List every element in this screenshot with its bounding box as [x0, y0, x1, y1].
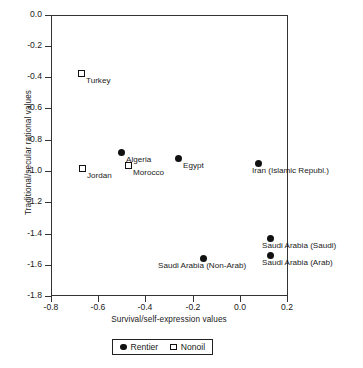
y-tick-label: 0.0 — [2, 10, 42, 19]
data-label-jordan: Jordan — [87, 171, 112, 180]
scatter-plot-figure: Traditional/secular rational values 0.0 … — [0, 0, 363, 368]
y-tick-label: -0.6 — [2, 103, 42, 112]
y-tick-label: -0.8 — [2, 135, 42, 144]
data-label-iran: Iran (Islamic Republ.) — [252, 166, 329, 175]
x-tick-label: -0.6 — [78, 303, 118, 312]
x-tick-label: -0.8 — [31, 303, 71, 312]
data-label-saudi-arabia-arab: Saudi Arabia (Arab) — [262, 258, 333, 267]
data-point-turkey[interactable] — [78, 70, 85, 77]
open-square-icon — [170, 344, 177, 351]
legend-entry-nonoil[interactable]: Nonoil — [170, 342, 205, 352]
data-label-turkey: Turkey — [86, 76, 110, 85]
x-tick-label: 0.2 — [267, 303, 307, 312]
legend-label-nonoil: Nonoil — [181, 342, 205, 352]
plot-frame-top — [51, 15, 287, 16]
y-tick-label: -1.4 — [2, 229, 42, 238]
data-label-saudi-arabia-non-arab: Saudi Arabia (Non-Arab) — [158, 261, 246, 270]
data-label-saudi-arabia-saudi: Saudi Arabia (Saudi) — [262, 241, 336, 250]
y-tick-label: -1.0 — [2, 166, 42, 175]
x-tick-label: -0.2 — [173, 303, 213, 312]
y-tick-label: -1.8 — [2, 291, 42, 300]
filled-circle-icon — [120, 344, 127, 351]
data-label-morocco: Morocco — [133, 168, 164, 177]
legend-label-rentier: Rentier — [131, 342, 159, 352]
x-tick-label: 0.0 — [220, 303, 260, 312]
plot-frame-right — [287, 15, 288, 296]
y-tick-label: -0.4 — [2, 72, 42, 81]
legend-entry-rentier[interactable]: Rentier — [120, 342, 158, 352]
y-tick-label: -1.2 — [2, 197, 42, 206]
data-point-egypt[interactable] — [175, 155, 182, 162]
x-tick-label: -0.4 — [125, 303, 165, 312]
chart-legend: Rentier Nonoil — [112, 339, 213, 355]
data-point-algeria[interactable] — [118, 149, 125, 156]
data-point-jordan[interactable] — [79, 165, 86, 172]
data-label-egypt: Egypt — [183, 161, 204, 170]
y-tick-label: -1.6 — [2, 260, 42, 269]
plot-area — [51, 15, 287, 296]
x-axis-title: Survival/self-expression values — [51, 315, 287, 324]
y-tick-label: -0.2 — [2, 41, 42, 50]
data-point-morocco[interactable] — [125, 162, 132, 169]
